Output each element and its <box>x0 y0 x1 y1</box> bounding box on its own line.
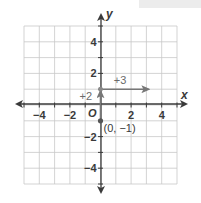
x-axis-label: x <box>180 88 189 102</box>
y-tick-label: 2 <box>90 67 96 79</box>
point-label: (0, −1) <box>104 122 136 134</box>
x-tick-label: 2 <box>128 109 134 121</box>
rise-label: +2 <box>80 90 93 102</box>
x-tick-label: 4 <box>159 109 166 121</box>
run-label: +3 <box>114 74 127 86</box>
rise-end-dot <box>98 87 103 92</box>
coordinate-plane: x y O −4−224 42−2−4 +2 +3 (0, −1) <box>0 0 201 203</box>
y-tick-label: 4 <box>90 36 97 48</box>
y-tick-label: −2 <box>84 131 97 143</box>
y-tick-label: −4 <box>84 162 97 174</box>
y-axis-label: y <box>105 7 114 21</box>
x-tick-label: −4 <box>33 109 46 121</box>
start-point-dot <box>98 118 103 123</box>
x-tick-label: −2 <box>64 109 77 121</box>
origin-label: O <box>88 107 97 119</box>
